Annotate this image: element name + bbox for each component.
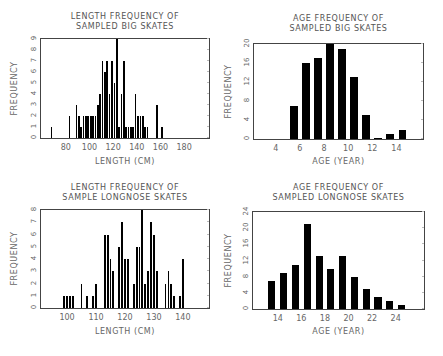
- histogram-bar: [156, 271, 158, 308]
- histogram-bar: [386, 134, 394, 139]
- minor-tick: [207, 115, 209, 116]
- y-axis-label: FREQUENCY: [10, 219, 19, 299]
- histogram-bar: [66, 296, 68, 308]
- histogram-bar: [118, 247, 120, 308]
- x-tick-label: 180: [172, 143, 196, 152]
- x-tick-label: 10: [336, 144, 360, 153]
- x-tick-label: 18: [313, 314, 337, 323]
- x-tick-label: 16: [289, 314, 313, 323]
- minor-tick: [422, 276, 424, 277]
- y-tick-label: 20: [243, 36, 251, 50]
- minor-tick: [207, 126, 209, 127]
- x-tick-label: 8: [312, 144, 336, 153]
- y-tick-label: 4: [243, 112, 251, 126]
- x-tick-label: 80: [54, 143, 78, 152]
- minor-tick: [207, 93, 209, 94]
- histogram-bar: [69, 296, 71, 308]
- histogram-bar: [314, 58, 322, 139]
- histogram-bar: [107, 235, 109, 309]
- histogram-bar: [92, 296, 94, 308]
- histogram-bar: [63, 296, 65, 308]
- x-tick-label: 100: [55, 313, 79, 322]
- x-tick-label: 130: [142, 313, 166, 322]
- minor-tick: [207, 307, 209, 308]
- histogram-bar: [362, 115, 370, 139]
- minor-tick: [421, 62, 423, 63]
- x-tick-label: 14: [266, 314, 290, 323]
- y-tick-label: 0: [243, 131, 251, 145]
- minor-tick: [421, 100, 423, 101]
- histogram-bar: [338, 49, 346, 139]
- y-axis-label: FREQUENCY: [224, 51, 233, 131]
- x-tick-label: 120: [113, 313, 137, 322]
- minor-tick: [207, 221, 209, 222]
- y-tick-label: 3: [30, 263, 38, 277]
- x-tick-label: 14: [384, 144, 408, 153]
- minor-tick: [421, 119, 423, 120]
- y-tick-label: 12: [243, 74, 251, 88]
- histogram-bar: [399, 130, 407, 140]
- minor-tick: [207, 82, 209, 83]
- y-tick-label: 8: [242, 269, 250, 283]
- histogram-bar: [121, 222, 123, 308]
- plot-area: [253, 43, 424, 140]
- minor-tick: [207, 137, 209, 138]
- minor-tick: [422, 243, 424, 244]
- y-tick-label: 0: [242, 301, 250, 315]
- histogram-bar: [165, 284, 167, 309]
- minor-tick: [207, 49, 209, 50]
- y-tick-label: 7: [30, 214, 38, 228]
- chart-title: LENGTH FREQUENCY OF SAMPLED BIG SKATES: [40, 12, 210, 32]
- x-tick-label: 12: [360, 144, 384, 153]
- histogram-bar: [170, 284, 172, 309]
- histogram-bar: [268, 281, 275, 309]
- histogram-bar: [326, 44, 334, 139]
- y-tick-label: 8: [243, 93, 251, 107]
- histogram-bar: [351, 277, 358, 309]
- histogram-bar: [386, 301, 393, 309]
- histogram-bar: [161, 127, 163, 138]
- x-tick-label: 6: [288, 144, 312, 153]
- minor-tick: [207, 258, 209, 259]
- minor-tick: [422, 308, 424, 309]
- y-axis-label: FREQUENCY: [224, 220, 233, 300]
- histogram-bar: [316, 256, 323, 309]
- histogram-bar: [51, 127, 53, 138]
- histogram-bar: [147, 271, 149, 308]
- x-tick-label: 110: [84, 313, 108, 322]
- histogram-bar: [104, 235, 106, 309]
- minor-tick: [421, 81, 423, 82]
- histogram-bar: [302, 63, 310, 139]
- histogram-bar: [141, 210, 143, 308]
- histogram-bar: [156, 105, 158, 138]
- histogram-bar: [136, 247, 138, 308]
- histogram-bar: [144, 284, 146, 309]
- histogram-bar: [133, 284, 135, 309]
- histogram-bar: [179, 296, 181, 308]
- histogram-bar: [127, 259, 129, 308]
- y-tick-label: 16: [242, 236, 250, 250]
- x-axis-label: AGE (YEAR): [252, 327, 425, 336]
- histogram-bar: [304, 224, 311, 309]
- histogram-bar: [280, 273, 287, 309]
- minor-tick: [207, 270, 209, 271]
- y-tick-label: 8: [30, 202, 38, 216]
- histogram-bar: [363, 289, 370, 309]
- x-tick-label: 20: [337, 314, 361, 323]
- x-tick-label: 22: [360, 314, 384, 323]
- y-axis-label: FREQUENCY: [10, 48, 19, 128]
- minor-tick: [421, 138, 423, 139]
- plot-area: [252, 211, 425, 310]
- minor-tick: [207, 246, 209, 247]
- histogram-bar: [124, 259, 126, 308]
- histogram-bar: [339, 256, 346, 309]
- minor-tick: [207, 71, 209, 72]
- y-tick-label: 4: [30, 251, 38, 265]
- histogram-bar: [150, 222, 152, 308]
- histogram-bar: [139, 247, 141, 308]
- minor-tick: [422, 292, 424, 293]
- histogram-bar: [173, 296, 175, 308]
- x-tick-label: 4: [264, 144, 288, 153]
- y-tick-label: 20: [242, 220, 250, 234]
- histogram-bar: [147, 127, 149, 138]
